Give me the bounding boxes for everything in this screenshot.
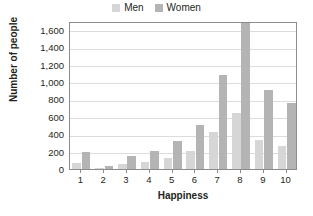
x-tick-mark <box>172 170 173 173</box>
x-tick-label: 7 <box>215 175 220 185</box>
y-axis-title: Number of people <box>8 0 19 125</box>
y-tick-label: 1,400 <box>24 43 64 53</box>
legend-label-men: Men <box>124 3 143 13</box>
x-tick-mark <box>149 170 150 173</box>
plot-area <box>69 22 297 170</box>
x-tick-label: 2 <box>101 175 106 185</box>
y-tick-label: 1,600 <box>24 26 64 36</box>
legend-item-women: Women <box>155 3 201 13</box>
bar-women-10 <box>287 103 296 169</box>
x-tick-label: 6 <box>192 175 197 185</box>
x-tick-label: 1 <box>78 175 83 185</box>
bar-chart: Men Women Number of people 0200400600800… <box>0 0 313 216</box>
x-axis-title: Happiness <box>69 190 297 201</box>
bar-men-10 <box>278 146 287 170</box>
y-tick-label: 600 <box>24 113 64 123</box>
x-tick-label: 3 <box>123 175 128 185</box>
y-axis-tick-labels: 02004006008001,0001,2001,4001,600 <box>24 0 64 216</box>
x-tick-label: 5 <box>169 175 174 185</box>
x-tick-mark <box>80 170 81 173</box>
legend-swatch-men <box>112 4 120 12</box>
x-tick-mark <box>194 170 195 173</box>
x-tick-label: 10 <box>280 175 291 185</box>
x-tick-mark <box>126 170 127 173</box>
x-tick-label: 8 <box>237 175 242 185</box>
legend-item-men: Men <box>112 3 143 13</box>
y-tick-label: 200 <box>24 148 64 158</box>
y-tick-label: 0 <box>24 165 64 175</box>
x-tick-mark <box>103 170 104 173</box>
bar-group <box>70 23 297 169</box>
x-axis-tick-labels: 12345678910 <box>69 170 297 190</box>
legend-swatch-women <box>155 4 163 12</box>
x-tick-mark <box>240 170 241 173</box>
y-tick-label: 1,000 <box>24 78 64 88</box>
x-tick-label: 9 <box>260 175 265 185</box>
bar-series-layer <box>70 23 296 169</box>
x-tick-label: 4 <box>146 175 151 185</box>
x-tick-mark <box>263 170 264 173</box>
y-tick-label: 800 <box>24 95 64 105</box>
x-tick-mark <box>286 170 287 173</box>
y-tick-label: 400 <box>24 130 64 140</box>
y-tick-label: 1,200 <box>24 61 64 71</box>
legend-label-women: Women <box>167 3 201 13</box>
x-tick-mark <box>217 170 218 173</box>
